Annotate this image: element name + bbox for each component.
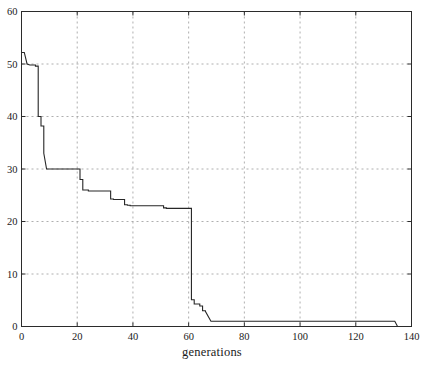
y-tick-label: 60 — [7, 6, 18, 17]
x-axis-title: generations — [0, 345, 424, 360]
x-tick-label: 0 — [19, 331, 24, 342]
y-tick-label: 0 — [12, 321, 17, 332]
line-chart-svg: 020406080100120140 0102030405060 — [0, 0, 424, 366]
data-series-group — [22, 52, 398, 326]
x-tick-label: 40 — [128, 331, 139, 342]
y-tick-labels: 0102030405060 — [7, 6, 18, 332]
y-tick-label: 40 — [7, 111, 18, 122]
x-tick-label: 140 — [404, 331, 420, 342]
chart-canvas: 020406080100120140 0102030405060 — [0, 0, 424, 366]
series-line-best-fitness — [22, 52, 398, 326]
y-tick-label: 10 — [7, 269, 18, 280]
x-tick-label: 80 — [239, 331, 250, 342]
x-tick-labels: 020406080100120140 — [19, 331, 420, 342]
x-tick-label: 20 — [72, 331, 83, 342]
chart-figure: 020406080100120140 0102030405060 generat… — [0, 0, 424, 366]
y-tick-label: 50 — [7, 59, 18, 70]
x-tick-label: 120 — [348, 331, 364, 342]
y-tick-label: 30 — [7, 164, 18, 175]
y-tick-label: 20 — [7, 216, 18, 227]
x-tick-label: 100 — [292, 331, 308, 342]
x-tick-label: 60 — [183, 331, 194, 342]
